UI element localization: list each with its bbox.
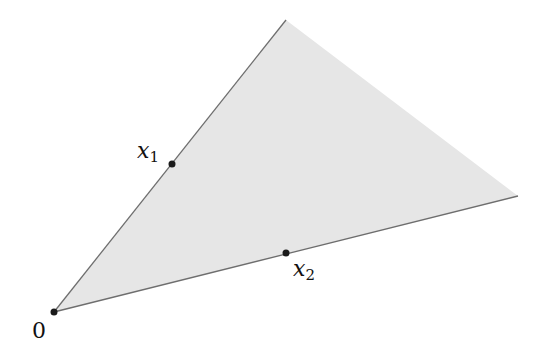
cone-diagram: 0 x1 x2 (0, 0, 538, 350)
x1-label: x1 (137, 140, 159, 165)
x1-label-sub: 1 (149, 148, 159, 166)
x1-point (169, 161, 176, 168)
cone-svg (0, 0, 538, 350)
origin-label: 0 (32, 320, 46, 342)
x2-label: x2 (293, 258, 315, 283)
x1-label-var: x (137, 138, 149, 163)
x2-label-var: x (293, 256, 305, 281)
x2-label-sub: 2 (305, 266, 315, 284)
origin-point (51, 309, 58, 316)
origin-label-text: 0 (32, 318, 46, 343)
cone-region (54, 20, 518, 312)
x2-point (283, 250, 290, 257)
